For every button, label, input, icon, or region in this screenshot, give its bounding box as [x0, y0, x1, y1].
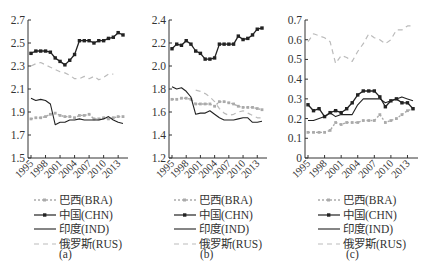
data-point-marker [78, 39, 81, 42]
data-point-marker [307, 131, 310, 134]
data-point-marker [102, 39, 105, 42]
data-point-marker [406, 109, 409, 112]
data-point-marker [73, 116, 76, 119]
data-point-marker [395, 117, 398, 120]
data-point-marker [213, 105, 216, 108]
data-point-marker [345, 121, 348, 124]
y-tick-label: 0.6 [288, 34, 303, 46]
data-point-marker [362, 119, 365, 122]
caption-a: (a) [59, 248, 72, 260]
data-point-marker [256, 107, 259, 110]
data-point-marker [411, 107, 414, 110]
data-point-marker [373, 89, 376, 92]
data-point-marker [223, 100, 226, 103]
data-point-marker [384, 105, 387, 108]
data-point-marker [317, 107, 320, 110]
legend-label: 巴西(BRA) [199, 193, 252, 208]
solid-line-icon [318, 225, 340, 233]
caption-b: (b) [200, 248, 213, 260]
data-point-marker [54, 56, 57, 59]
legend-item-rus: 俄罗斯(RUS) [318, 237, 406, 252]
data-point-marker [306, 103, 309, 106]
y-tick-label: 1.6 [152, 106, 167, 118]
legend-item-bra: 巴西(BRA) [174, 193, 262, 208]
data-point-marker [63, 63, 66, 66]
data-point-marker [237, 105, 240, 108]
legend-item-ind: 印度(IND) [174, 222, 262, 237]
data-point-marker [246, 106, 249, 109]
dashed-line-icon [174, 240, 196, 248]
series-bra [171, 97, 264, 111]
dotted-marker-line-icon [34, 196, 56, 204]
data-point-marker [227, 101, 230, 104]
data-point-marker [170, 47, 173, 50]
legend-item-bra: 巴西(BRA) [34, 193, 122, 208]
solid-line-icon [34, 225, 56, 233]
data-point-marker [73, 53, 76, 56]
data-point-marker [199, 103, 202, 106]
y-tick-label: 0.1 [288, 132, 303, 144]
data-point-marker [83, 114, 86, 117]
y-tick-label: 0.2 [288, 113, 303, 125]
solid-marker-line-icon [34, 211, 56, 219]
data-point-marker [49, 51, 52, 54]
data-point-marker [59, 114, 62, 117]
data-point-marker [49, 113, 52, 116]
data-point-marker [227, 42, 230, 45]
data-point-marker [384, 121, 387, 124]
data-point-marker [78, 114, 81, 117]
data-point-marker [107, 37, 110, 40]
data-point-marker [241, 38, 244, 41]
data-point-marker [406, 101, 409, 104]
y-tick-label: 0.7 [288, 14, 303, 26]
data-point-marker [194, 49, 197, 52]
series-bra [307, 107, 415, 133]
data-point-marker [54, 112, 57, 115]
data-point-marker [242, 106, 245, 109]
caption-c: (c) [346, 248, 359, 260]
legend-item-ind: 印度(IND) [34, 222, 122, 237]
legend-b: 巴西(BRA) 中国(CHN) 印度(IND) 俄罗斯(RUS) [174, 193, 262, 251]
legend-item-rus: 俄罗斯(RUS) [34, 237, 122, 252]
data-point-marker [88, 113, 91, 116]
legend-label: 中国(CHN) [59, 208, 113, 223]
data-point-marker [334, 121, 337, 124]
data-point-marker [351, 121, 354, 124]
data-point-marker [58, 60, 61, 63]
data-point-marker [246, 37, 249, 40]
y-tick-label: 2.3 [11, 60, 26, 72]
data-point-marker [378, 113, 381, 116]
data-point-marker [112, 36, 115, 39]
data-point-marker [260, 26, 263, 29]
data-point-marker [318, 131, 321, 134]
data-point-marker [218, 42, 221, 45]
data-point-marker [29, 52, 32, 55]
data-point-marker [97, 39, 100, 42]
data-point-marker [68, 115, 71, 118]
y-tick-label: 1.9 [11, 106, 26, 118]
data-point-marker [30, 118, 33, 121]
data-point-marker [237, 34, 240, 37]
data-point-marker [232, 103, 235, 106]
y-tick-label: 2.5 [11, 37, 26, 49]
data-point-marker [323, 131, 326, 134]
data-point-marker [171, 98, 174, 101]
data-point-marker [117, 115, 120, 118]
y-tick-label: 1.8 [152, 83, 167, 95]
data-point-marker [340, 123, 343, 126]
data-point-marker [400, 101, 403, 104]
data-point-marker [208, 57, 211, 60]
legend-item-chn: 中国(CHN) [174, 208, 262, 223]
data-point-marker [34, 49, 37, 52]
legend-label: 巴西(BRA) [59, 193, 112, 208]
data-point-marker [39, 49, 42, 52]
data-point-marker [261, 108, 264, 111]
data-point-marker [83, 39, 86, 42]
x-tick-label: 2013 [389, 158, 412, 181]
series-ind [31, 98, 123, 125]
data-point-marker [68, 59, 71, 62]
data-point-marker [312, 109, 315, 112]
solid-marker-line-icon [318, 211, 340, 219]
data-point-marker [185, 39, 188, 42]
data-point-marker [373, 119, 376, 122]
